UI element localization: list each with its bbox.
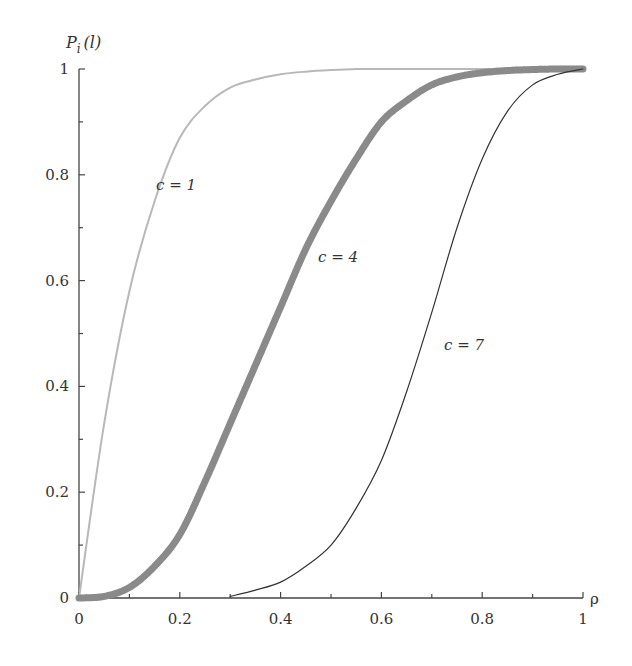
x-tick-label: 0.4: [269, 610, 293, 628]
curves: [79, 69, 583, 598]
curve-c4: [79, 69, 583, 598]
x-tick-label: 0.2: [168, 610, 192, 628]
x-tick-label: 0: [74, 610, 84, 628]
y-tick-label: 0.8: [45, 166, 69, 184]
y-tick-label: 0: [59, 589, 69, 607]
y-tick-label: 0.6: [45, 272, 69, 290]
y-tick-label: 1: [59, 60, 69, 78]
curve-c1: [79, 69, 583, 598]
x-tick-label: 0.8: [470, 610, 494, 628]
axes: 00.20.40.60.81 00.20.40.60.81: [45, 60, 588, 628]
curve-label-c1: c = 1: [156, 176, 196, 194]
y-axis-label: Pi(l): [65, 33, 101, 56]
y-tick-label: 0.2: [45, 483, 69, 501]
y-tick-label: 0.4: [45, 377, 69, 395]
x-tick-label: 0.6: [369, 610, 393, 628]
curve-c7: [230, 69, 583, 596]
x-axis-label: ρ: [590, 590, 599, 608]
curve-label-c4: c = 4: [318, 248, 358, 266]
x-tick-label: 1: [578, 610, 588, 628]
chart: 00.20.40.60.81 00.20.40.60.81 Pi(l) ρ c …: [0, 0, 632, 666]
curve-label-c7: c = 7: [444, 336, 485, 354]
